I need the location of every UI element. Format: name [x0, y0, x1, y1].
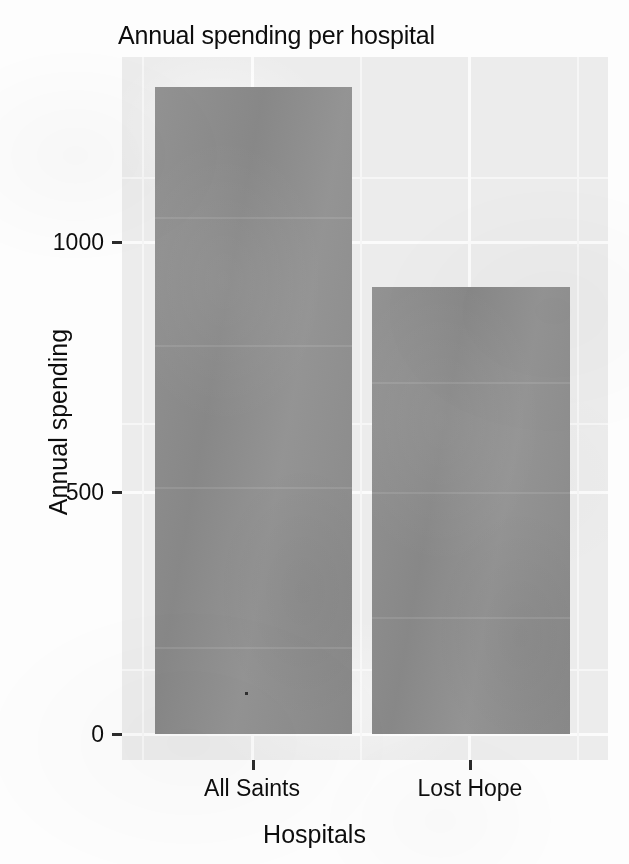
- vgridline-minor-right: [577, 57, 579, 760]
- bar-streak: [372, 617, 570, 619]
- vgridline-minor-left: [142, 57, 144, 760]
- x-tick-mark-all-saints: [252, 760, 255, 770]
- bar-streak: [155, 345, 352, 347]
- chart-title: Annual spending per hospital: [118, 20, 435, 50]
- x-tick-label-lost-hope: Lost Hope: [370, 775, 570, 801]
- bar-streak: [155, 217, 352, 219]
- y-tick-mark-500: [112, 491, 122, 494]
- y-tick-mark-1000: [112, 241, 122, 244]
- bar-texture: [155, 87, 352, 734]
- bar-streak: [372, 492, 570, 494]
- bar-streak: [372, 382, 570, 384]
- y-tick-label-0: 0: [18, 722, 104, 746]
- bar-streak: [155, 647, 352, 649]
- y-tick-mark-0: [112, 733, 122, 736]
- bar-all-saints[interactable]: [155, 87, 352, 734]
- bar-lost-hope[interactable]: [372, 287, 570, 734]
- bar-streak: [155, 487, 352, 489]
- scan-artifact-speck: [245, 692, 248, 695]
- bar-chart-figure: Annual spending per hospital Annual spen…: [0, 0, 629, 864]
- x-tick-mark-lost-hope: [469, 760, 472, 770]
- x-axis-title: Hospitals: [0, 820, 629, 848]
- y-axis-title: Annual spending: [44, 272, 72, 572]
- y-tick-label-500: 500: [18, 480, 104, 504]
- bar-texture: [372, 287, 570, 734]
- plot-panel: [122, 57, 608, 760]
- vgridline-minor-middle: [360, 57, 362, 760]
- x-tick-label-all-saints: All Saints: [152, 775, 352, 801]
- y-tick-label-1000: 1000: [18, 230, 104, 254]
